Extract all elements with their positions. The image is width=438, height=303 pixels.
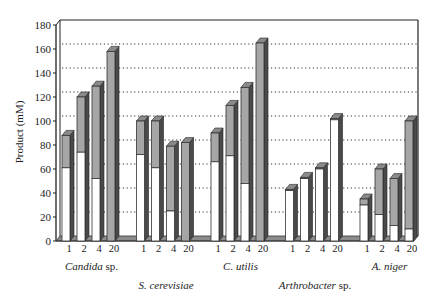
bar-lower-segment — [390, 225, 398, 241]
bar — [301, 172, 313, 241]
bar-lower-segment — [360, 205, 368, 241]
y-tick-label: 0 — [46, 235, 52, 247]
bar — [211, 128, 223, 241]
bar-upper-segment — [256, 43, 264, 241]
bar-upper-segment — [62, 135, 70, 167]
group-labels: Candida sp.S. cerevisiaeC. utilisArthrob… — [65, 260, 408, 291]
x-category-label: 4 — [394, 243, 400, 254]
bar-group — [211, 38, 268, 241]
x-category-label: 1 — [290, 243, 295, 254]
bar-lower-segment — [286, 191, 294, 241]
bar — [256, 38, 268, 241]
bar-lower-segment — [375, 215, 383, 241]
stacked-bar-chart: Product (mM) 020406080100120140160180 12… — [0, 0, 438, 303]
bar-group — [137, 116, 194, 241]
x-category-label: 4 — [320, 243, 326, 254]
group-label: C. utilis — [223, 260, 258, 272]
bar — [405, 116, 417, 241]
y-tick-label: 80 — [40, 139, 52, 151]
bars — [62, 38, 417, 241]
y-tick-label: 140 — [35, 67, 52, 79]
bar — [92, 81, 104, 241]
bar-lower-segment — [226, 156, 234, 241]
y-tick-label: 180 — [35, 19, 52, 31]
bar-lower-segment — [137, 155, 145, 241]
bar — [77, 92, 89, 241]
x-category-label: 2 — [156, 243, 161, 254]
bar-upper-segment — [137, 121, 145, 155]
y-axis-title: Product (mM) — [13, 100, 26, 163]
x-category-label: 20 — [258, 243, 269, 254]
bar-upper-segment — [182, 143, 190, 241]
bar-lower-segment — [301, 179, 309, 241]
x-category-label: 2 — [305, 243, 310, 254]
frame-corner — [56, 20, 60, 25]
x-category-label: 20 — [332, 243, 343, 254]
bar-lower-segment — [316, 169, 324, 241]
bar-upper-segment — [226, 105, 234, 155]
bar-lower-segment — [152, 168, 160, 241]
x-category-label: 1 — [215, 243, 220, 254]
bar — [241, 82, 253, 241]
bar-lower-segment — [62, 168, 70, 241]
y-tick-label: 160 — [35, 43, 52, 55]
bar-lower-segment — [167, 211, 175, 241]
bar-upper-segment — [241, 87, 249, 183]
bar — [107, 46, 119, 241]
bar — [152, 116, 164, 241]
group-label: Arthrobacter sp. — [278, 279, 352, 291]
y-tick-label: 120 — [35, 91, 52, 103]
x-category-label: 2 — [230, 243, 235, 254]
bar — [390, 174, 402, 241]
x-axis-category-labels: 1242012420124201242012420 — [66, 243, 417, 254]
bar — [226, 100, 238, 241]
x-category-label: 1 — [141, 243, 146, 254]
bar — [137, 116, 149, 241]
bar — [286, 184, 298, 241]
x-category-label: 4 — [245, 243, 251, 254]
bar-group — [62, 46, 119, 241]
bar-upper-segment — [211, 133, 219, 162]
bar-upper-segment — [77, 97, 85, 152]
bar — [360, 194, 372, 241]
x-category-label: 1 — [66, 243, 71, 254]
y-tick-label: 100 — [35, 115, 52, 127]
bar-upper-segment — [405, 121, 413, 229]
bar-lower-segment — [241, 183, 249, 241]
x-category-label: 4 — [171, 243, 177, 254]
bar-upper-segment — [152, 121, 160, 168]
bar-lower-segment — [92, 179, 100, 241]
bar-group — [286, 114, 343, 241]
x-category-label: 20 — [109, 243, 120, 254]
x-category-label: 4 — [96, 243, 102, 254]
bar-lower-segment — [331, 120, 339, 241]
group-label: S. cerevisiae — [138, 279, 193, 291]
bar-upper-segment — [167, 146, 175, 211]
y-tick-label: 40 — [40, 187, 52, 199]
group-label: A. niger — [371, 260, 408, 272]
bar-upper-segment — [360, 199, 368, 205]
bar-upper-segment — [92, 86, 100, 178]
x-category-label: 2 — [379, 243, 384, 254]
bar-upper-segment — [375, 169, 383, 215]
bar-upper-segment — [107, 51, 115, 241]
bar — [375, 164, 387, 241]
bar-lower-segment — [77, 152, 85, 241]
bar — [331, 114, 343, 241]
x-category-label: 20 — [183, 243, 194, 254]
x-category-label: 20 — [407, 243, 418, 254]
y-tick-label: 60 — [40, 163, 52, 175]
bar — [167, 141, 179, 241]
bar-lower-segment — [405, 229, 413, 241]
x-category-label: 1 — [364, 243, 369, 254]
bar — [182, 138, 194, 241]
y-axis-label: Product (mM) — [13, 100, 26, 163]
x-category-label: 2 — [81, 243, 86, 254]
y-axis-ticks: 020406080100120140160180 — [35, 19, 57, 247]
y-tick-label: 20 — [40, 211, 52, 223]
bar-group — [360, 116, 417, 241]
bar — [62, 130, 74, 241]
bar-upper-segment — [390, 179, 398, 226]
group-label: Candida sp. — [65, 260, 118, 272]
bar-lower-segment — [211, 162, 219, 241]
